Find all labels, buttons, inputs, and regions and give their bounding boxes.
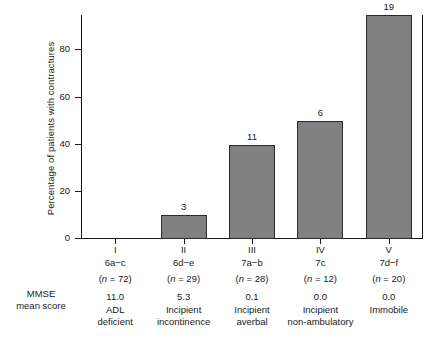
bar-III [229, 145, 275, 239]
category-n-V: (n = 20) [348, 273, 430, 285]
y-tick-label-20: 20 [36, 185, 70, 196]
mmse-row-label-line2: mean score [4, 300, 78, 312]
bar-value-label-V: 19 [359, 1, 419, 12]
mmse-row-label-line1: MMSE [4, 288, 78, 300]
bar-value-label-IV: 6 [290, 107, 350, 118]
category-mmse-V: 0.0 [348, 291, 430, 303]
bar-value-label-II: 3 [154, 201, 214, 212]
bar-II [161, 215, 207, 239]
category-desc2-IV: non-ambulatory [279, 316, 361, 328]
chart-figure: Percentage of patients with contractures… [0, 0, 441, 339]
y-tick-label-80: 80 [36, 43, 70, 54]
mmse-row-label: MMSE mean score [4, 288, 78, 311]
category-desc1-V: Immobile [348, 304, 430, 316]
y-tick-label-40: 40 [36, 138, 70, 149]
bar-IV [297, 121, 343, 239]
plot-area: 311619 [81, 15, 423, 239]
bar-value-label-III: 11 [222, 131, 282, 142]
category-column-V: V7d−f(n = 20)0.0Immobile [348, 241, 430, 315]
category-roman-V: V [348, 244, 430, 256]
y-tick-label-0: 0 [36, 232, 70, 243]
category-code-V: 7d−f [348, 257, 430, 269]
category-label-table: I6a−c(n = 72)11.0ADLdeficientII6d−e(n = … [81, 241, 423, 337]
bar-V [366, 15, 412, 239]
y-tick-label-60: 60 [36, 91, 70, 102]
